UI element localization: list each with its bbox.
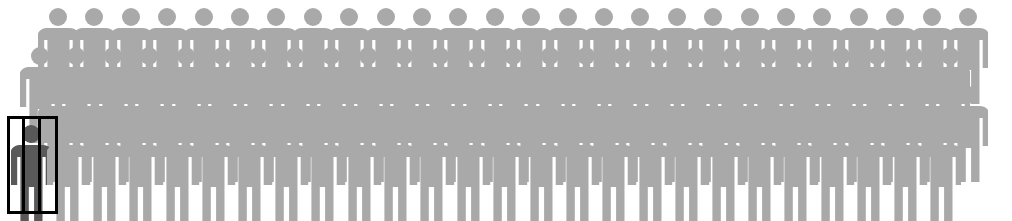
pictogram-canvas [0,0,1012,221]
person-icon [521,121,561,221]
person-icon [193,121,233,221]
person-icon [848,121,888,221]
person-icon [375,121,415,221]
cell-bar-2 [38,116,41,214]
person-icon [484,121,524,221]
person-icon [557,121,597,221]
cell-frame-border [7,116,58,214]
crowd-figure-layer [0,0,1012,221]
person-icon [885,121,925,221]
person-icon [593,121,633,221]
person-icon [120,121,160,221]
cell-bar-1 [22,116,25,214]
prison-cell-highlight [7,116,58,214]
person-icon [302,121,342,221]
person-icon [775,121,815,221]
person-icon [229,121,269,221]
person-icon [266,121,306,221]
person-icon [812,121,852,221]
person-icon [411,121,451,221]
person-icon [84,121,124,221]
person-icon [921,121,961,221]
person-icon [339,121,379,221]
person-icon [157,121,197,221]
person-icon [630,121,670,221]
person-icon [448,121,488,221]
person-icon [739,121,779,221]
person-icon [703,121,743,221]
person-icon [666,121,706,221]
